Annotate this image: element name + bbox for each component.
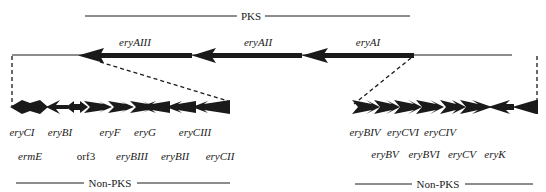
right-cluster-arrows <box>352 100 538 114</box>
gene-label-eryCV: eryCV <box>448 149 476 160</box>
gene-label-eryBI: eryBI <box>48 127 72 138</box>
gene-label-eryBVI: eryBVI <box>408 149 439 160</box>
gene-label-eryBV: eryBV <box>371 149 398 160</box>
eryAIII-arrow <box>78 48 192 63</box>
gene-label-eryBII: eryBII <box>161 151 189 162</box>
gene-label-eryCII: eryCII <box>206 151 235 162</box>
gene-label-eryK: eryK <box>484 149 505 160</box>
gene-label-eryG: eryG <box>134 127 156 138</box>
gene-label-ermE: ermE <box>18 151 42 162</box>
gene-label-eryCIV: eryCIV <box>424 127 456 138</box>
gene-label-eryCVI: eryCVI <box>387 127 419 138</box>
gene-label-eryCIII: eryCIII <box>179 127 211 138</box>
gene-label-eryBIV: eryBIV <box>349 127 380 138</box>
gene-label-eryAII: eryAII <box>244 37 272 48</box>
gene-label-eryF: eryF <box>100 127 121 138</box>
gene-label-eryCI: eryCI <box>9 127 34 138</box>
gene-label-eryAIII: eryAIII <box>119 37 151 48</box>
pks-label: PKS <box>237 11 265 22</box>
gene-label-eryBIII: eryBIII <box>116 151 148 162</box>
eryAII-arrow <box>192 48 302 63</box>
nonpks-left-label: Non-PKS <box>85 178 136 189</box>
gene-label-eryAI: eryAI <box>356 37 380 48</box>
eryAI-arrow <box>302 48 414 63</box>
ery-gene-cluster-diagram: PKS eryAIII eryAII eryAI eryCI eryBI ery… <box>0 0 546 192</box>
gene-label-orf3: orf3 <box>77 151 95 162</box>
zoom-connectors <box>12 56 537 106</box>
diagram-graphics <box>0 0 546 192</box>
left-cluster-arrows <box>10 100 230 114</box>
nonpks-right-label: Non-PKS <box>413 179 464 190</box>
